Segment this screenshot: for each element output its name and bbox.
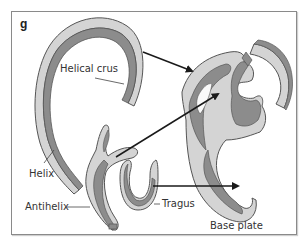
arrow-helical-crus [143,52,192,71]
label-base-plate: Base plate [210,220,263,231]
label-helical-crus: Helical crus [60,63,118,74]
label-antihelix: Antihelix [25,201,69,212]
tragus-shape [120,160,158,210]
leader-helical-crus [95,78,124,84]
antihelix-shape [86,125,138,230]
ear-cartilage-diagram: Helical crus Helix Antihelix Tragus Base… [0,0,306,244]
base-plate-shape [182,52,266,222]
label-tragus: Tragus [161,198,195,209]
label-helix: Helix [29,168,54,179]
